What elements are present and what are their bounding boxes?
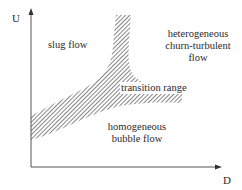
heterogeneous-line-2: churn-turbulent — [148, 40, 242, 52]
x-axis-arrow-icon — [215, 165, 222, 170]
y-axis-arrow-icon — [29, 8, 34, 15]
homogeneous-line-2: bubble flow — [92, 133, 182, 145]
homogeneous-flow-label: homogeneous bubble flow — [92, 121, 182, 145]
heterogeneous-line-1: heterogeneous — [148, 28, 242, 40]
x-axis-label: D — [223, 174, 231, 186]
homogeneous-line-1: homogeneous — [92, 121, 182, 133]
slug-flow-label: slug flow — [48, 39, 87, 51]
heterogeneous-line-3: flow — [148, 52, 242, 64]
heterogeneous-flow-label: heterogeneous churn-turbulent flow — [148, 28, 242, 64]
y-axis-label: U — [12, 12, 20, 24]
transition-range-label: transition range — [120, 82, 188, 94]
